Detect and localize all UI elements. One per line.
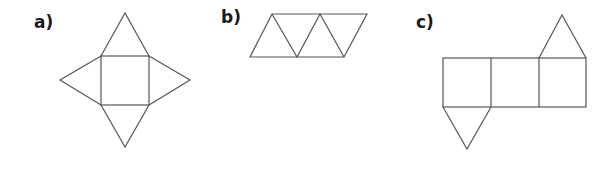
nets-diagram [0,0,604,184]
figure-a-pyramid-net [60,13,190,147]
figure-b-tetrahedron-net [250,14,367,57]
figure-c-prism-net [443,15,586,149]
